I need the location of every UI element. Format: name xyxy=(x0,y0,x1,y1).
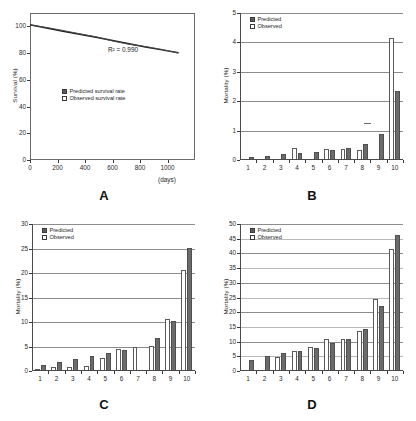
panel-c: Mortality (%) 051015202530 12345678910 P… xyxy=(0,211,208,421)
filled-square-icon xyxy=(62,89,67,94)
panel-b-axes xyxy=(240,13,403,160)
panel-d-y-tick-20: 20 xyxy=(213,308,236,315)
panel-d-x-tickmark-2 xyxy=(273,371,274,374)
panel-b-y-tick-1: 1 xyxy=(213,127,236,134)
panel-c-x-tick-10: 10 xyxy=(175,375,199,382)
panel-d-y-tickmark-0 xyxy=(237,371,240,372)
panel-d-legend-row-predicted: Predicted xyxy=(250,227,282,233)
panel-b-y-tick-5: 5 xyxy=(213,9,236,16)
panel-b-x-tick-10: 10 xyxy=(383,164,407,171)
panel-b-y-tick-0: 0 xyxy=(213,156,236,163)
panel-c-letter: C xyxy=(0,397,208,412)
panel-c-x-tickmark-6 xyxy=(130,371,131,374)
panel-b-x-tickmark-3 xyxy=(289,160,290,163)
panel-d-x-tickmark-10 xyxy=(403,371,404,374)
panel-c-legend-row-observed: Observed xyxy=(42,234,74,240)
panel-d-y-tick-25: 25 xyxy=(213,294,236,301)
panel-d-y-tick-45: 45 xyxy=(213,235,236,242)
panel-d-axes xyxy=(240,224,403,371)
panel-d-x-tickmark-8 xyxy=(370,371,371,374)
panel-b-x-tickmark-10 xyxy=(403,160,404,163)
panel-d-x-tickmark-7 xyxy=(354,371,355,374)
panel-b-legend-row-observed: Observed xyxy=(250,23,282,29)
open-square-icon xyxy=(250,235,255,240)
panel-b-legend: Predicted Observed xyxy=(250,16,282,30)
figure-root: Survival (%) 020406080100 02004006008001… xyxy=(0,0,416,421)
panel-c-x-tickmark-5 xyxy=(114,371,115,374)
panel-b-marker-tick xyxy=(364,123,371,124)
panel-c-y-tickmark-0 xyxy=(29,371,32,372)
panel-c-y-tick-15: 15 xyxy=(5,294,28,301)
panel-b-x-tickmark-1 xyxy=(256,160,257,163)
panel-a-legend: Predicted survival rate Observed surviva… xyxy=(62,88,125,102)
open-square-icon xyxy=(42,235,47,240)
panel-d-legend-label-predicted: Predicted xyxy=(258,227,282,233)
panel-b-y-axis-title: Mortality (%) xyxy=(222,56,229,116)
panel-d-x-tickmark-4 xyxy=(305,371,306,374)
panel-c-legend: Predicted Observed xyxy=(42,227,74,241)
panel-c-x-tickmark-1 xyxy=(48,371,49,374)
panel-a-legend-label-predicted: Predicted survival rate xyxy=(70,88,125,94)
open-square-icon xyxy=(62,96,67,101)
panel-c-x-tickmark-3 xyxy=(81,371,82,374)
panel-d-x-tickmark-5 xyxy=(322,371,323,374)
panel-b-x-tickmark-9 xyxy=(387,160,388,163)
panel-a-legend-row-predicted: Predicted survival rate xyxy=(62,88,125,94)
panel-b-x-tickmark-2 xyxy=(273,160,274,163)
panel-a-survival-curves xyxy=(0,0,208,210)
panel-c-axes xyxy=(32,224,195,371)
panel-c-y-tick-30: 30 xyxy=(5,220,28,227)
panel-b-x-tickmark-6 xyxy=(338,160,339,163)
panel-c-legend-label-observed: Observed xyxy=(50,234,74,240)
panel-c-y-tick-5: 5 xyxy=(5,343,28,350)
panel-b-legend-label-observed: Observed xyxy=(258,23,282,29)
panel-d-y-tick-30: 30 xyxy=(213,279,236,286)
panel-c-y-tick-25: 25 xyxy=(5,245,28,252)
panel-c-x-tickmark-2 xyxy=(65,371,66,374)
panel-b-x-tickmark-5 xyxy=(322,160,323,163)
panel-b-legend-row-predicted: Predicted xyxy=(250,16,282,22)
open-square-icon xyxy=(250,24,255,29)
panel-d-y-tick-50: 50 xyxy=(213,220,236,227)
panel-a-legend-label-observed: Observed survival rate xyxy=(70,95,126,101)
filled-square-icon xyxy=(42,228,47,233)
panel-d-y-tick-15: 15 xyxy=(213,323,236,330)
filled-square-icon xyxy=(250,228,255,233)
panel-c-x-tickmark-4 xyxy=(97,371,98,374)
panel-b-x-tickmark-8 xyxy=(370,160,371,163)
filled-square-icon xyxy=(250,17,255,22)
panel-c-legend-label-predicted: Predicted xyxy=(50,227,74,233)
panel-b-letter: B xyxy=(208,188,416,203)
panel-a-r-squared-annotation: R² = 0.990 xyxy=(108,46,138,53)
panel-b-legend-label-predicted: Predicted xyxy=(258,16,282,22)
panel-c-legend-row-predicted: Predicted xyxy=(42,227,74,233)
panel-d-x-tickmark-6 xyxy=(338,371,339,374)
panel-d-y-tick-10: 10 xyxy=(213,338,236,345)
panel-a-legend-row-observed: Observed survival rate xyxy=(62,95,125,101)
panel-a: Survival (%) 020406080100 02004006008001… xyxy=(0,0,208,210)
panel-d-letter: D xyxy=(208,397,416,412)
panel-d-legend-row-observed: Observed xyxy=(250,234,282,240)
panel-c-y-tick-0: 0 xyxy=(5,367,28,374)
panel-d-x-tick-10: 10 xyxy=(383,375,407,382)
panel-d-y-tick-0: 0 xyxy=(213,367,236,374)
panel-d-y-tick-35: 35 xyxy=(213,264,236,271)
panel-b-y-tick-4: 4 xyxy=(213,38,236,45)
panel-d-y-tick-40: 40 xyxy=(213,249,236,256)
panel-c-y-tick-10: 10 xyxy=(5,318,28,325)
panel-d-x-tickmark-9 xyxy=(387,371,388,374)
panel-b: Mortality (%) 012345 12345678910 Predict… xyxy=(208,0,416,210)
panel-c-x-tickmark-10 xyxy=(195,371,196,374)
panel-d-legend: Predicted Observed xyxy=(250,227,282,241)
panel-c-y-tick-20: 20 xyxy=(5,269,28,276)
panel-c-x-tickmark-9 xyxy=(179,371,180,374)
panel-d-y-tick-5: 5 xyxy=(213,352,236,359)
panel-c-x-tickmark-7 xyxy=(146,371,147,374)
panel-d-legend-label-observed: Observed xyxy=(258,234,282,240)
panel-d-x-tickmark-3 xyxy=(289,371,290,374)
panel-b-y-tick-3: 3 xyxy=(213,68,236,75)
panel-b-y-tickmark-0 xyxy=(237,160,240,161)
panel-a-x-axis-title: (days) xyxy=(158,176,176,183)
panel-d: Mortality (%) 05101520253035404550 12345… xyxy=(208,211,416,421)
panel-b-y-tick-2: 2 xyxy=(213,97,236,104)
